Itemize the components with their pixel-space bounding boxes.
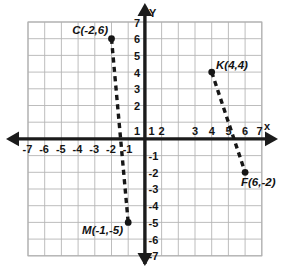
x-tick-1: 1 (149, 125, 155, 137)
y-tick--4: -4 (149, 200, 160, 212)
point-k-label: K(4,4) (216, 59, 248, 71)
y-tick-3: 3 (134, 83, 140, 95)
x-tick-4: 4 (209, 125, 216, 137)
point-m-label: M(-1,-5) (82, 224, 123, 236)
x-tick--7: -7 (23, 143, 33, 155)
axes (6, 3, 278, 266)
y-tick--7: -7 (149, 250, 159, 262)
point-m-marker (125, 219, 132, 226)
x-axis-arrow-right-icon (265, 132, 278, 147)
y-tick-4: 4 (134, 67, 141, 79)
x-tick-3: 3 (192, 125, 198, 137)
point-c-label: C(-2,6) (72, 24, 108, 36)
coordinate-plane-figure: x Y -7 -6 -5 -4 -3 -2 -1 2 3 4 5 6 7 1 1… (0, 0, 284, 269)
x-tick--5: -5 (56, 143, 66, 155)
segment-cm (112, 39, 129, 223)
x-tick--4: -4 (73, 143, 84, 155)
point-f-label: F(6,-2) (241, 176, 276, 188)
y-tick-2: 2 (134, 100, 140, 112)
y-tick--6: -6 (149, 234, 159, 246)
y-axis-letter: Y (149, 7, 157, 19)
y-tick--3: -3 (149, 183, 159, 195)
point-f-marker (242, 169, 249, 176)
x-tick-7: 7 (257, 125, 263, 137)
y-tick-1: 1 (134, 125, 140, 137)
x-tick-2: 2 (159, 125, 165, 137)
y-tick--5: -5 (149, 217, 159, 229)
x-axis-arrow-left-icon (6, 132, 19, 147)
y-tick-5: 5 (134, 50, 140, 62)
y-tick--2: -2 (149, 167, 159, 179)
x-axis-letter: x (264, 120, 271, 132)
y-tick-7: 7 (134, 17, 140, 29)
x-tick--6: -6 (39, 143, 49, 155)
y-tick-6: 6 (134, 33, 140, 45)
x-tick--1: -1 (123, 143, 133, 155)
coordinate-plane-svg: x Y -7 -6 -5 -4 -3 -2 -1 2 3 4 5 6 7 1 1… (0, 0, 284, 269)
x-tick-6: 6 (242, 125, 248, 137)
y-tick--1: -1 (149, 150, 159, 162)
point-c-marker (108, 35, 115, 42)
point-k-marker (208, 69, 215, 76)
x-tick--3: -3 (89, 143, 99, 155)
x-tick--2: -2 (106, 143, 116, 155)
